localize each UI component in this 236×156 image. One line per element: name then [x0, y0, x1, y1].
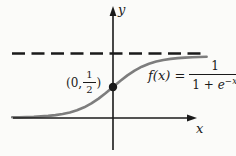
sigmoid-function-plot: y x (0, 1 2 ) f(x) = 1 1 + e−x — [0, 0, 236, 156]
point-label-suffix: ) — [97, 77, 102, 89]
equation-denominator-prefix: 1 + — [192, 78, 217, 92]
point-fraction-numerator: 1 — [83, 70, 95, 82]
point-label-prefix: (0, — [66, 77, 82, 89]
point-label-fraction: 1 2 — [83, 70, 95, 95]
y-axis-arrow-icon — [110, 6, 117, 16]
point-dot — [109, 83, 117, 91]
y-axis-label: y — [118, 3, 125, 16]
function-equation: f(x) = 1 1 + e−x — [148, 60, 236, 91]
equation-exponent: −x — [225, 76, 236, 86]
x-axis-label: x — [196, 122, 203, 135]
equation-lhs: f(x) = — [148, 69, 185, 82]
equation-fraction: 1 1 + e−x — [189, 60, 236, 91]
point-fraction-denominator: 2 — [83, 82, 95, 95]
equation-numerator: 1 — [208, 60, 222, 74]
equation-denominator: 1 + e−x — [189, 74, 236, 91]
point-label: (0, 1 2 ) — [66, 70, 101, 95]
equation-denominator-e: e — [218, 78, 225, 92]
